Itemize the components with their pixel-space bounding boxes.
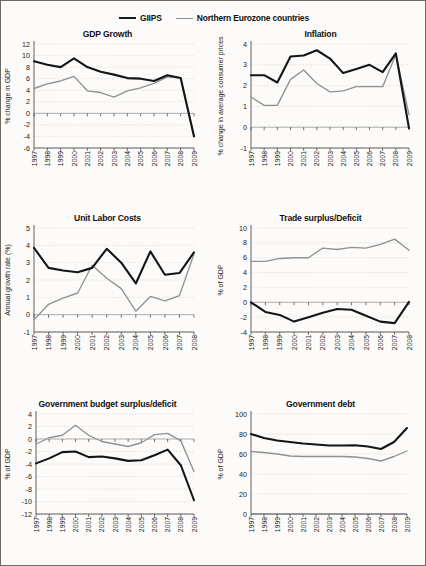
x-tick-label: 2001 xyxy=(300,517,307,532)
y-tick-label: 10 xyxy=(239,224,247,233)
x-tick-label: 2000 xyxy=(71,151,78,166)
x-tick-label: 2002 xyxy=(313,151,320,166)
x-tick-label: 2007 xyxy=(176,335,183,350)
x-tick-label: 2007 xyxy=(164,151,171,166)
y-tick-label: -10 xyxy=(22,497,32,506)
x-tick-label: 2003 xyxy=(111,151,118,166)
x-tick-label: 2003 xyxy=(326,517,333,532)
y-tick-label: 0 xyxy=(243,298,247,307)
y-tick-label: 6 xyxy=(243,253,247,262)
y-tick-label: 4 xyxy=(26,241,30,250)
y-tick-label: 3 xyxy=(26,258,30,267)
chart-panel-unit-labor-costs: Unit Labor Costs-10123451997199819992000… xyxy=(1,211,214,397)
chart-plot-gdp-growth: -6-4-20246810121997199819992000200120022… xyxy=(1,27,214,211)
x-tick-label: 2000 xyxy=(291,335,298,350)
y-tick-label: -6 xyxy=(26,472,32,481)
y-axis-title: % of GDP xyxy=(217,264,224,295)
chart-grid: GDP Growth-6-4-2024681012199719981999200… xyxy=(1,27,426,565)
y-tick-label: 2 xyxy=(28,422,32,431)
series-line-giips xyxy=(36,450,194,501)
chart-plot-unit-labor-costs: -101234519971998199920002001200220032004… xyxy=(1,211,214,397)
x-tick-label: 2006 xyxy=(151,517,158,532)
legend-swatch-giips xyxy=(119,17,136,19)
x-tick-label: 2006 xyxy=(151,151,158,166)
x-tick-label: 2002 xyxy=(313,517,320,532)
legend-entry-northern-eurozone: Northern Eurozone countries xyxy=(176,13,309,23)
x-tick-label: 2008 xyxy=(406,335,413,350)
x-tick-label: 1998 xyxy=(46,517,53,532)
y-tick-label: -12 xyxy=(22,510,32,519)
x-tick-label: 2007 xyxy=(164,517,171,532)
series-line-giips xyxy=(251,50,409,128)
series-line-northern-eurozone xyxy=(251,239,409,261)
x-tick-label: 1999 xyxy=(57,151,64,166)
x-tick-label: 2003 xyxy=(118,335,125,350)
x-tick-label: 1998 xyxy=(45,335,52,350)
legend-entry-giips: GIIPS xyxy=(119,13,162,23)
series-line-giips xyxy=(251,428,407,449)
x-tick-label: 1997 xyxy=(31,335,38,350)
x-tick-label: 1999 xyxy=(60,335,67,350)
chart-plot-inflation: -101234199719981999200020012002200320042… xyxy=(214,27,426,211)
y-tick-label: 80 xyxy=(239,430,247,439)
legend-label-giips: GIIPS xyxy=(140,13,162,23)
x-tick-label: 2001 xyxy=(305,335,312,350)
x-tick-label: 1999 xyxy=(274,517,281,532)
x-tick-label: 2004 xyxy=(348,335,355,350)
y-tick-label: 0 xyxy=(243,123,247,132)
y-axis-title: % of GDP xyxy=(217,448,224,479)
y-axis-title: % change in average consumer prices xyxy=(217,36,225,156)
x-tick-label: 2005 xyxy=(137,151,144,166)
x-tick-label: 2003 xyxy=(327,151,334,166)
x-tick-label: 1997 xyxy=(33,517,40,532)
x-tick-label: 2003 xyxy=(112,517,119,532)
x-tick-label: 2006 xyxy=(365,517,372,532)
y-tick-label: 6 xyxy=(26,74,30,83)
x-tick-label: 2005 xyxy=(147,335,154,350)
x-tick-label: 2008 xyxy=(177,517,184,532)
x-tick-label: 2006 xyxy=(162,335,169,350)
y-tick-label: -2 xyxy=(241,313,247,322)
x-tick-label: 2000 xyxy=(72,517,79,532)
x-tick-label: 1997 xyxy=(248,151,255,166)
x-tick-label: 2005 xyxy=(352,517,359,532)
chart-plot-trade-surplus-deficit: -4-2024681019971998199920002001200220032… xyxy=(214,211,426,397)
y-tick-label: -4 xyxy=(241,328,247,337)
chart-panel-gdp-growth: GDP Growth-6-4-2024681012199719981999200… xyxy=(1,27,214,211)
y-tick-label: 8 xyxy=(26,63,30,72)
y-tick-label: 8 xyxy=(243,238,247,247)
y-tick-label: 4 xyxy=(243,40,247,49)
x-tick-label: 2005 xyxy=(363,335,370,350)
x-tick-label: 2008 xyxy=(392,151,399,166)
x-tick-label: 2000 xyxy=(287,151,294,166)
y-tick-label: 40 xyxy=(239,470,247,479)
y-tick-label: -1 xyxy=(241,144,247,153)
y-tick-label: -1 xyxy=(24,328,30,337)
x-tick-label: 1999 xyxy=(276,335,283,350)
x-tick-label: 2006 xyxy=(377,335,384,350)
y-tick-label: 60 xyxy=(239,450,247,459)
x-tick-label: 2004 xyxy=(125,517,132,532)
y-tick-label: -2 xyxy=(24,120,30,129)
x-tick-label: 1998 xyxy=(44,151,51,166)
chart-plot-government-budget-surplus-deficit: -12-10-8-6-4-202419971998199920002001200… xyxy=(1,397,214,565)
x-tick-label: 2000 xyxy=(74,335,81,350)
y-tick-label: 20 xyxy=(239,490,247,499)
x-tick-label: 2002 xyxy=(103,335,110,350)
chart-panel-trade-surplus-deficit: Trade surplus/Deficit-4-2024681019971998… xyxy=(214,211,426,397)
series-line-northern-eurozone xyxy=(36,425,194,471)
y-axis-title: % of GDP xyxy=(4,448,11,479)
x-tick-label: 2007 xyxy=(391,335,398,350)
figure-legend: GIIPS Northern Eurozone countries xyxy=(1,10,426,26)
x-tick-label: 2008 xyxy=(391,517,398,532)
x-tick-label: 2004 xyxy=(124,151,131,166)
y-tick-label: 2 xyxy=(26,97,30,106)
series-line-northern-eurozone xyxy=(251,54,409,114)
y-tick-label: 1 xyxy=(243,102,247,111)
y-tick-label: 0 xyxy=(243,510,247,519)
y-tick-label: 2 xyxy=(243,81,247,90)
x-tick-label: 1997 xyxy=(248,517,255,532)
y-tick-label: 4 xyxy=(28,410,32,419)
chart-panel-government-budget-surplus-deficit: Government budget surplus/deficit-12-10-… xyxy=(1,397,214,565)
y-tick-label: -8 xyxy=(26,485,32,494)
